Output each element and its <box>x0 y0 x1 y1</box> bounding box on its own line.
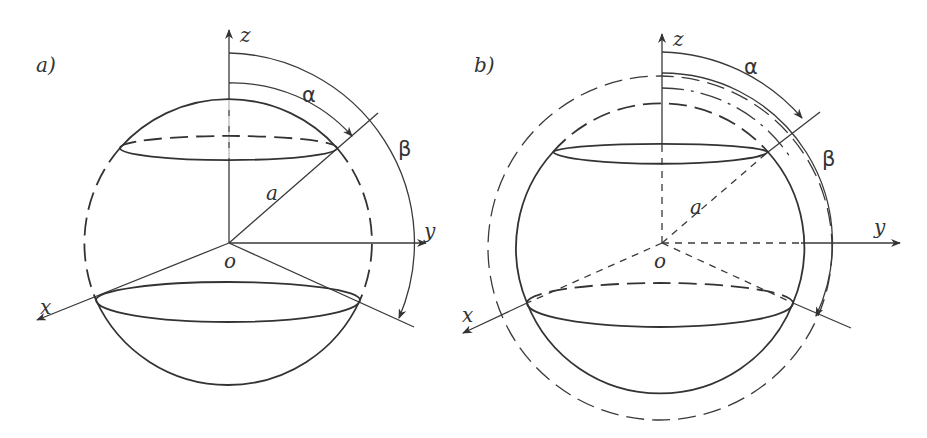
x-axis-hidden-part <box>527 243 662 303</box>
sphere-bottom-gap <box>600 378 720 391</box>
y-axis-label: y <box>423 219 436 243</box>
cone-generator-line <box>229 243 414 327</box>
cone-generator-hidden <box>662 243 793 303</box>
panel-b: b) z y x o a <box>462 27 900 420</box>
sphere-right <box>768 152 804 303</box>
alpha-arc <box>229 83 352 136</box>
y-axis-label: y <box>873 215 886 239</box>
bottom-ellipse-front <box>96 300 360 322</box>
top-ellipse-front <box>553 152 768 164</box>
x-axis-label: x <box>40 295 51 319</box>
outer-dashed-circle <box>488 76 832 420</box>
radius-label: a <box>266 181 278 205</box>
sphere-left-dashed <box>84 148 120 300</box>
bottom-ellipse-front <box>527 303 793 327</box>
z-axis-label: z <box>672 27 684 51</box>
sphere-bottom <box>527 303 793 393</box>
z-axis-label: z <box>239 23 251 47</box>
beta-label: β <box>398 137 411 161</box>
radius-line <box>229 113 378 243</box>
sphere-bottom <box>96 300 360 385</box>
sphere-left <box>516 152 553 303</box>
origin-label: o <box>654 249 666 273</box>
bottom-ellipse-back <box>527 283 793 303</box>
top-ellipse-back <box>553 144 768 152</box>
origin-label: o <box>224 249 236 273</box>
alpha-arc <box>662 52 802 118</box>
panel-b-label: b) <box>474 53 495 77</box>
sphere-right-dashed <box>337 148 372 300</box>
panel-a: a) z y x o a α β <box>36 23 436 385</box>
alpha-label: α <box>302 83 316 107</box>
figure-canvas: a) z y x o a α β <box>0 0 927 438</box>
panel-a-label: a) <box>36 53 56 77</box>
radius-label: a <box>690 195 702 219</box>
beta-arc <box>662 73 832 316</box>
radius-line <box>768 112 820 152</box>
radius-hidden <box>662 152 768 243</box>
alpha-label: α <box>744 55 758 79</box>
beta-arc <box>229 53 414 318</box>
beta-label: β <box>822 147 835 171</box>
x-axis-label: x <box>462 303 473 327</box>
